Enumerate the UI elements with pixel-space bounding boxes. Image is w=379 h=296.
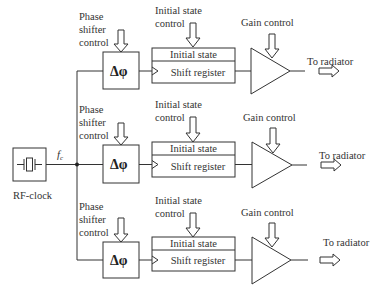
to-radiator-label: To radiator: [323, 237, 370, 248]
phase-shifter-control-label: Phase shifter control: [79, 11, 109, 48]
rf-clock-block: RF-clock: [13, 148, 53, 201]
phase-shifter-control-label: Phase shifter control: [79, 201, 109, 238]
register-initial-state-label: Initial state: [170, 143, 217, 154]
gain-control-label: Gain control: [241, 207, 294, 218]
gain-control-arrow-icon: [265, 34, 279, 58]
phase-shifter-symbol: Δφ: [110, 157, 128, 172]
gain-control-label: Gain control: [241, 17, 294, 28]
initial-state-control-label: Initial state control: [155, 99, 205, 123]
channel-2: Phase shifter control Δφ Initial state c…: [79, 99, 366, 188]
initial-state-control-arrow-icon: [186, 117, 200, 142]
to-radiator-label: To radiator: [319, 150, 366, 161]
initial-state-control-label: Initial state control: [155, 195, 205, 219]
gain-control-label: Gain control: [243, 112, 296, 123]
clock-frequency-label: fc: [57, 148, 64, 162]
register-shift-label: Shift register: [171, 255, 226, 266]
channel-3: Phase shifter control Δφ Initial state c…: [79, 195, 370, 284]
initial-state-control-label: Initial state control: [155, 5, 205, 29]
phase-control-arrow-icon: [114, 218, 128, 242]
phased-array-block-diagram: RF-clock fc Phase shifter control Δφ Ini…: [0, 0, 379, 296]
phase-control-arrow-icon: [114, 30, 128, 52]
phase-shifter-control-label: Phase shifter control: [79, 104, 109, 141]
register-shift-label: Shift register: [171, 161, 226, 172]
bus-junction-dot: [75, 163, 79, 167]
channel-1: Phase shifter control Δφ Initial state c…: [79, 5, 354, 94]
to-radiator-label: To radiator: [307, 56, 354, 67]
rf-clock-label: RF-clock: [13, 190, 53, 201]
register-shift-label: Shift register: [171, 67, 226, 78]
initial-state-control-arrow-icon: [186, 213, 200, 237]
gain-control-arrow-icon: [266, 128, 280, 153]
phase-shifter-symbol: Δφ: [110, 253, 128, 268]
gain-control-arrow-icon: [265, 223, 279, 247]
phase-shifter-symbol: Δφ: [110, 64, 128, 79]
register-initial-state-label: Initial state: [170, 49, 217, 60]
register-initial-state-label: Initial state: [170, 238, 217, 249]
to-radiator-arrow-icon: [320, 254, 340, 266]
initial-state-control-arrow-icon: [186, 23, 200, 47]
phase-control-arrow-icon: [114, 123, 128, 145]
